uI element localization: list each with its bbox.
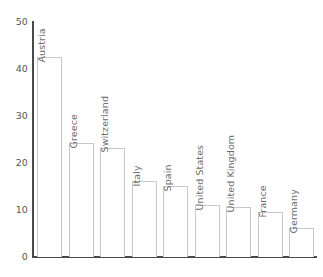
bar xyxy=(258,212,283,257)
bar-category-label: United States xyxy=(194,145,204,211)
bar xyxy=(69,143,94,257)
y-axis-tick-label: 20 xyxy=(2,158,28,168)
bar xyxy=(195,205,220,257)
bar-category-label: Switzerland xyxy=(100,96,110,153)
bar xyxy=(132,181,157,257)
bar xyxy=(226,207,251,257)
bar-category-label: Italy xyxy=(131,165,141,186)
bar-chart: 01020304050 AustriaGreeceSwitzerlandItal… xyxy=(0,0,323,277)
y-axis-tick-labels: 01020304050 xyxy=(0,0,28,277)
bar-category-label: France xyxy=(257,185,267,217)
bar xyxy=(100,148,125,258)
y-axis-tick-label: 0 xyxy=(2,252,28,262)
bar-category-label: United Kingdom xyxy=(226,135,236,213)
y-axis-tick-label: 40 xyxy=(2,64,28,74)
plot-area: AustriaGreeceSwitzerlandItalySpainUnited… xyxy=(33,22,317,257)
bar-category-label: Austria xyxy=(37,28,47,62)
y-axis-tick-label: 10 xyxy=(2,205,28,215)
y-axis-tick-label: 50 xyxy=(2,17,28,27)
bar-category-label: Germany xyxy=(289,189,299,233)
bar-category-label: Greece xyxy=(68,114,78,148)
bar xyxy=(163,186,188,257)
bar xyxy=(37,57,62,257)
bar-category-label: Spain xyxy=(163,164,173,191)
y-axis-tick-label: 30 xyxy=(2,111,28,121)
